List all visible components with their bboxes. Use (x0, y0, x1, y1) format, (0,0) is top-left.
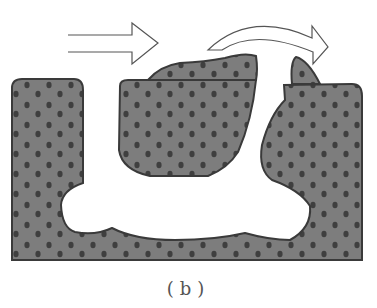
raised-cap-on-middle-block (148, 54, 257, 80)
middle-porous-block (119, 80, 256, 176)
diagram (0, 0, 377, 308)
figure-caption: (b) (0, 278, 377, 299)
flow-direction-arrow (68, 23, 158, 64)
